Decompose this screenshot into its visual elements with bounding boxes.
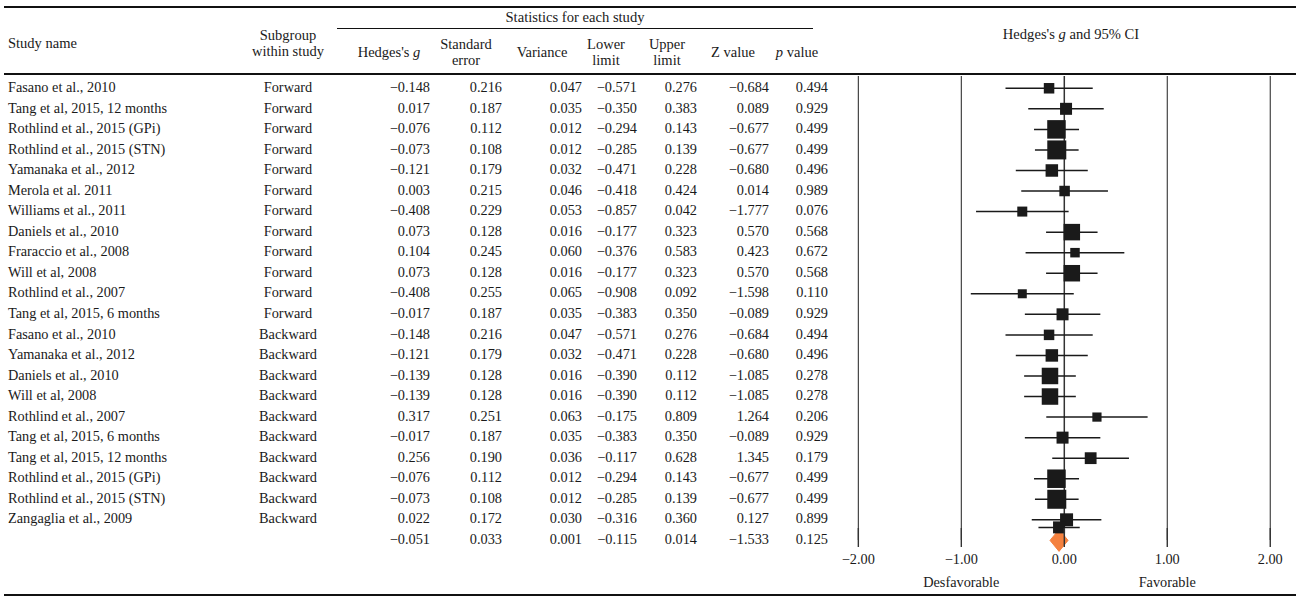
cell-standard-error: 0.245 xyxy=(430,243,513,260)
cell-standard-error: 0.112 xyxy=(430,469,513,486)
cell-study-name: Will et al, 2008 xyxy=(8,264,96,281)
cell-p-value: 0.179 xyxy=(766,449,834,466)
forest-row-marker xyxy=(1024,388,1076,405)
cell-upper-limit: 0.112 xyxy=(637,387,703,404)
table-row: Fraraccio et al., 2008Forward0.1040.2450… xyxy=(0,242,830,263)
cell-p-value: 0.989 xyxy=(766,182,834,199)
effect-square xyxy=(1047,120,1066,139)
cell-p-value: 0.278 xyxy=(766,367,834,384)
cell-p-value: 0.568 xyxy=(766,264,834,281)
cell-upper-limit: 0.276 xyxy=(637,79,703,96)
effect-square xyxy=(1017,207,1027,217)
cell-p-value: 0.929 xyxy=(766,305,834,322)
cell-p-value: 0.496 xyxy=(766,346,834,363)
table-row: Rothlind et al., 2015 (GPi)Forward−0.076… xyxy=(0,119,830,140)
cell-lower-limit: −0.177 xyxy=(575,264,642,281)
cell-standard-error: 0.112 xyxy=(430,120,513,137)
stats-group-header: Statistics for each study xyxy=(330,10,820,25)
cell-upper-limit: 0.809 xyxy=(637,408,703,425)
subgroup-header-line2: within study xyxy=(252,43,324,59)
cell-lower-limit: −0.294 xyxy=(575,120,642,137)
effect-square xyxy=(1064,224,1081,241)
column-header-upper-limit: Upper limit xyxy=(637,36,697,68)
cell-subgroup: Forward xyxy=(232,161,344,178)
cell-standard-error: 0.216 xyxy=(430,79,513,96)
cell-study-name: Daniels et al., 2010 xyxy=(8,223,119,240)
forest-row-marker xyxy=(1032,513,1102,526)
cell-upper-limit: 0.112 xyxy=(637,367,703,384)
table-body: Fasano et al., 2010Forward−0.1480.2160.0… xyxy=(0,78,830,551)
cell-study-name: Rothlind et al., 2015 (STN) xyxy=(8,141,165,158)
cell-upper-limit: 0.350 xyxy=(637,305,703,322)
forest-row-marker xyxy=(1028,103,1103,115)
table-row: Rothlind et al., 2015 (STN)Forward−0.073… xyxy=(0,140,830,161)
cell-p-value: 0.899 xyxy=(766,510,834,527)
stats-group-underline xyxy=(337,28,813,29)
cell-subgroup: Backward xyxy=(232,346,344,363)
axis-footer-desfavorable: Desfavorable xyxy=(861,574,1061,591)
forest-row-marker xyxy=(1034,120,1079,139)
table-row-summary: −0.0510.0330.001−0.1150.014−1.5330.125 xyxy=(0,530,830,551)
cell-subgroup: Backward xyxy=(232,469,344,486)
cell-study-name: Tang et al, 2015, 12 months xyxy=(8,100,167,117)
effect-square xyxy=(1018,289,1027,298)
cell-subgroup: Forward xyxy=(232,120,344,137)
plot-title: Hedges's g and 95% CI xyxy=(845,27,1297,42)
forest-row-marker xyxy=(1052,452,1129,464)
column-header-variance: Variance xyxy=(502,45,582,60)
cell-upper-limit: 0.139 xyxy=(637,490,703,507)
axis-footer-favorable: Favorable xyxy=(1067,574,1267,591)
table-row: Will et al, 2008Forward0.0730.1280.016−0… xyxy=(0,263,830,284)
cell-lower-limit: −0.390 xyxy=(575,367,642,384)
cell-p-value: 0.278 xyxy=(766,387,834,404)
cell-subgroup: Backward xyxy=(232,510,344,527)
forest-row-marker xyxy=(971,289,1074,298)
effect-square xyxy=(1047,469,1066,488)
cell-subgroup: Backward xyxy=(232,408,344,425)
upper-header-line1: Upper xyxy=(649,36,685,52)
effect-square xyxy=(1057,432,1069,444)
cell-upper-limit: 0.360 xyxy=(637,510,703,527)
effect-square xyxy=(1064,265,1081,282)
forest-row-marker xyxy=(1016,349,1088,362)
cell-p-value: 0.494 xyxy=(766,326,834,343)
cell-standard-error: 0.128 xyxy=(430,264,513,281)
table-bottom-rule xyxy=(4,594,1296,596)
cell-subgroup: Backward xyxy=(232,449,344,466)
forest-row-marker xyxy=(1025,308,1100,320)
cell-subgroup: Forward xyxy=(232,223,344,240)
table-row: Rothlind et al., 2015 (GPi)Backward−0.07… xyxy=(0,468,830,489)
cell-lower-limit: −0.571 xyxy=(575,326,642,343)
cell-upper-limit: 0.092 xyxy=(637,284,703,301)
cell-study-name: Rothlind et al., 2015 (GPi) xyxy=(8,120,161,137)
forest-row-marker xyxy=(1016,164,1088,177)
table-row: Will et al, 2008Backward−0.1390.1280.016… xyxy=(0,386,830,407)
cell-upper-limit: 0.228 xyxy=(637,346,703,363)
table-row: Fasano et al., 2010Backward−0.1480.2160.… xyxy=(0,325,830,346)
cell-upper-limit: 0.228 xyxy=(637,161,703,178)
effect-square xyxy=(1085,452,1097,464)
table-header-rule xyxy=(4,73,1296,75)
lower-header-line2: limit xyxy=(592,52,619,68)
summary-diamond xyxy=(1050,529,1068,551)
table-row: Yamanaka et al., 2012Forward−0.1210.1790… xyxy=(0,160,830,181)
cell-standard-error: 0.179 xyxy=(430,161,513,178)
cell-lower-limit: −0.117 xyxy=(575,449,642,466)
cell-study-name: Zangaglia et al., 2009 xyxy=(8,510,132,527)
cell-standard-error: 0.187 xyxy=(430,305,513,322)
cell-study-name: Tang et al, 2015, 6 months xyxy=(8,428,160,445)
cell-p-value: 0.499 xyxy=(766,120,834,137)
table-row: Merola et al. 2011Forward0.0030.2150.046… xyxy=(0,181,830,202)
cell-upper-limit: 0.139 xyxy=(637,141,703,158)
cell-upper-limit: 0.323 xyxy=(637,264,703,281)
cell-study-name: Rothlind et al., 2015 (STN) xyxy=(8,490,165,507)
effect-square xyxy=(1070,248,1080,257)
cell-standard-error: 0.108 xyxy=(430,141,513,158)
cell-standard-error: 0.108 xyxy=(430,490,513,507)
forest-row-marker xyxy=(1005,330,1092,341)
forest-plot-figure: Statistics for each study Hedges's g and… xyxy=(0,0,1302,607)
table-row: Zangaglia et al., 2009Backward0.0220.172… xyxy=(0,509,830,530)
effect-square xyxy=(1046,164,1059,177)
cell-upper-limit: 0.383 xyxy=(637,100,703,117)
cell-upper-limit: 0.276 xyxy=(637,326,703,343)
